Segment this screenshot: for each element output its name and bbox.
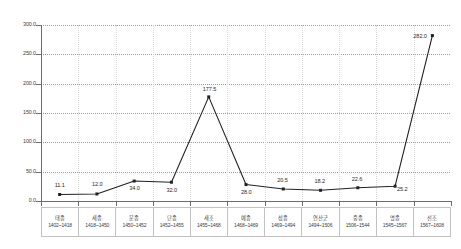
category-range: 1418~1450 [85,223,109,228]
category-name: 선조 [427,216,437,221]
x-axis-category-cell: 세종1418~1450 [79,208,116,236]
category-name: 성종 [278,216,288,221]
category-name: 단종 [167,216,177,221]
x-axis-category-cell: 선조1567~1608 [414,208,451,236]
x-axis-category-cell: 명종1545~1567 [377,208,414,236]
category-range: 1468~1469 [234,223,258,228]
x-axis-tick [227,201,228,206]
data-point-marker [319,189,322,192]
data-point-label: 34.0 [129,186,140,192]
y-axis-tick [36,84,42,85]
data-point-label: 22.6 [352,177,363,183]
x-axis-category-cell: 세조1455~1468 [191,208,228,236]
x-axis-tick [190,201,191,206]
x-axis-category-cell: 단종1452~1455 [154,208,191,236]
data-point-label: 20.5 [277,178,288,184]
category-name: 중종 [353,216,363,221]
x-axis-category-cell: 연산군1494~1506 [302,208,339,236]
x-axis-tick [302,201,303,206]
x-axis-tick [41,201,42,206]
x-axis-category-cell: 예종1468~1469 [228,208,265,236]
category-range: 1402~1418 [48,223,72,228]
y-axis-tick [36,113,42,114]
x-axis-tick [451,201,452,206]
x-axis-tick [376,201,377,206]
y-axis-tick [36,25,42,26]
x-axis-category-cell: 중종1506~1544 [340,208,377,236]
data-point-label: 28.0 [241,190,252,196]
x-axis-tick [414,201,415,206]
category-name: 연산군 [313,216,328,221]
data-point-marker [282,187,285,190]
data-point-label: 12.0 [92,182,103,188]
x-axis-tick [78,201,79,206]
category-range: 1450~1452 [123,223,147,228]
data-point-label: 32.0 [166,188,177,194]
data-point-marker [58,193,61,196]
category-range: 1494~1506 [308,223,332,228]
x-axis-tick [339,201,340,206]
category-name: 예종 [241,216,251,221]
x-axis-category-cell: 문종1450~1452 [116,208,153,236]
data-point-label: 25.2 [397,187,408,193]
data-point-marker [133,180,136,183]
y-axis-tick [36,54,42,55]
category-name: 세종 [92,216,102,221]
x-axis-category-cell: 성종1469~1494 [265,208,302,236]
data-point-marker [431,34,434,37]
category-name: 문종 [129,216,139,221]
data-point-label: 177.5 [203,87,217,93]
data-point-marker [170,181,173,184]
category-name: 명종 [390,216,400,221]
category-axis-table: 태종1402~1418세종1418~1450문종1450~1452단종1452~… [41,207,451,237]
category-name: 태종 [55,216,65,221]
data-point-marker [207,95,210,98]
category-name: 세조 [204,216,214,221]
data-point-marker [245,183,248,186]
x-axis-category-cell: 태종1402~1418 [42,208,79,236]
category-range: 1469~1494 [271,223,295,228]
data-point-label: 282.0 [413,34,427,40]
x-axis-tick [265,201,266,206]
x-axis-tick [116,201,117,206]
y-axis-tick [36,172,42,173]
data-point-marker [356,186,359,189]
x-axis-tick [153,201,154,206]
category-range: 1455~1468 [197,223,221,228]
category-range: 1567~1608 [420,223,444,228]
y-axis-tick [36,142,42,143]
series-polyline [60,36,433,195]
data-point-label: 18.2 [315,179,326,185]
category-range: 1506~1544 [346,223,370,228]
data-point-marker [95,192,98,195]
line-chart: 300.0250.0200.0150.0100.050.00.0 11.112.… [0,0,461,249]
data-point-label: 11.1 [55,183,65,189]
category-range: 1452~1455 [160,223,184,228]
category-range: 1545~1567 [383,223,407,228]
